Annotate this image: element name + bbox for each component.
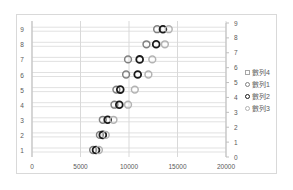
legend-label: 數列3 bbox=[252, 103, 270, 113]
circle-marker-icon bbox=[245, 82, 250, 87]
y-tick-label-left: 9 bbox=[20, 26, 24, 33]
y-tick-label-left: 6 bbox=[20, 72, 24, 79]
y-tick-label-right: 2 bbox=[234, 124, 238, 131]
legend-item-series2: 數列2 bbox=[245, 90, 270, 102]
y-tick-label-right: 5 bbox=[234, 79, 238, 86]
legend-item-series1: 數列1 bbox=[245, 78, 270, 90]
y-tick-label-left: 7 bbox=[20, 56, 24, 63]
legend-item-series3: 數列3 bbox=[245, 102, 270, 114]
y-tick-label-left: 4 bbox=[20, 102, 24, 109]
y-tick-label-left: 1 bbox=[20, 147, 24, 154]
square-marker-icon bbox=[245, 70, 250, 75]
x-tick-label: 5000 bbox=[73, 163, 88, 170]
y-tick-label-right: 8 bbox=[234, 34, 238, 41]
x-tick-label: 15000 bbox=[168, 163, 186, 170]
y-tick-label-left: 3 bbox=[20, 117, 24, 124]
legend-label: 數列1 bbox=[252, 79, 270, 89]
x-tick-label: 0 bbox=[30, 163, 34, 170]
circle-marker-icon bbox=[245, 94, 250, 99]
legend-label: 數列4 bbox=[252, 67, 270, 77]
legend-label: 數列2 bbox=[252, 91, 270, 101]
y-tick-label-left: 2 bbox=[20, 132, 24, 139]
x-tick-label: 10000 bbox=[120, 163, 138, 170]
chart-legend: 數列4 數列1 數列2 數列3 bbox=[245, 66, 270, 114]
legend-item-series4: 數列4 bbox=[245, 66, 270, 78]
x-tick-label: 20000 bbox=[217, 163, 235, 170]
y-tick-label-right: 0 bbox=[234, 154, 238, 161]
y-tick-label-left: 5 bbox=[20, 87, 24, 94]
y-tick-label-right: 4 bbox=[234, 94, 238, 101]
y-tick-label-right: 1 bbox=[234, 139, 238, 146]
y-tick-label-right: 9 bbox=[234, 20, 238, 27]
y-tick-label-left: 8 bbox=[20, 41, 24, 48]
y-tick-label-right: 7 bbox=[234, 49, 238, 56]
y-tick-label-right: 3 bbox=[234, 109, 238, 116]
y-tick-label-right: 6 bbox=[234, 64, 238, 71]
circle-marker-icon bbox=[245, 106, 250, 111]
